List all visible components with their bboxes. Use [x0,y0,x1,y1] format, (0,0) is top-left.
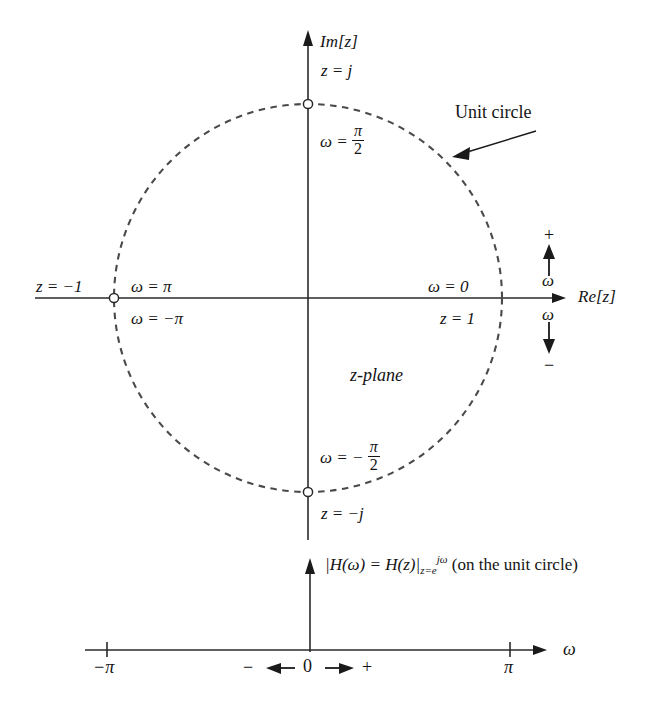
omega-tick-label-pi: π [504,658,513,676]
real-axis-arrowhead [552,293,566,303]
label-omega-equals-zero: ω = 0 [428,278,468,295]
label-z-equals-j: z = j [321,62,352,79]
fraction-denominator: 2 [352,140,364,158]
omega-axis-arrowhead [533,645,547,655]
origin-row-plus: + [362,658,372,676]
fraction-numerator: π [352,123,364,140]
omega-axis-label: ω [563,640,576,658]
z-plane-diagram [0,0,664,704]
omega-direction-plus-sign: + [544,226,554,244]
unit-circle-leader-arrowhead [452,147,470,160]
fraction-pi-over-2: π 2 [352,123,364,158]
origin-row-zero: 0 [303,657,312,675]
label-z-equals-minus-j: z = −j [321,505,364,522]
magnitude-response-superscript: jω [437,553,448,565]
magnitude-response-label: |H(ω) = H(z)|z=ejω (on the unit circle) [325,554,578,576]
imaginary-axis-arrowhead [303,30,313,46]
origin-left-arrowhead [266,663,281,674]
fraction-numerator: π [368,439,380,456]
origin-row-minus: − [243,658,253,676]
label-omega-pi-over-2: ω = π 2 [320,124,364,159]
omega-direction-minus-sign: − [544,356,554,374]
unit-circle-leader-line [464,131,536,153]
omega-tick-label-minus-pi: −π [93,658,114,676]
omega-down-arrowhead [543,339,555,354]
omega-direction-down-label: ω [542,306,554,323]
marker-z-equals-minus-j [303,487,312,496]
label-omega-equals-minus-pi: ω = −π [131,310,183,327]
label-z-equals-one: z = 1 [440,310,475,327]
fraction-denominator: 2 [368,456,380,474]
z-plane-label: z-plane [350,366,403,384]
marker-z-equals-minus-one [109,293,118,302]
fraction-minus-pi-over-2: π 2 [368,439,380,474]
magnitude-axis-arrowhead [305,558,315,574]
origin-right-arrowhead [339,663,354,674]
magnitude-response-trail: (on the unit circle) [452,555,578,574]
marker-z-equals-j [303,99,312,108]
magnitude-response-subscript: z=e [420,564,437,576]
omega-up-arrowhead [543,244,555,259]
label-omega-pi-over-2-prefix: ω = [320,133,348,150]
unit-circle-label: Unit circle [455,103,531,121]
z-plane-label-text: z-plane [350,365,403,385]
omega-direction-up-label: ω [542,272,554,289]
label-omega-minus-pi-over-2-prefix: ω = − [320,449,363,466]
label-omega-minus-pi-over-2: ω = − π 2 [320,440,380,475]
label-z-equals-minus-one: z = −1 [36,278,83,295]
real-axis-label: Re[z] [578,288,616,305]
label-omega-equals-pi: ω = π [131,278,172,295]
imaginary-axis-label: Im[z] [320,33,358,50]
magnitude-response-lead: |H(ω) = H(z)| [325,555,420,574]
